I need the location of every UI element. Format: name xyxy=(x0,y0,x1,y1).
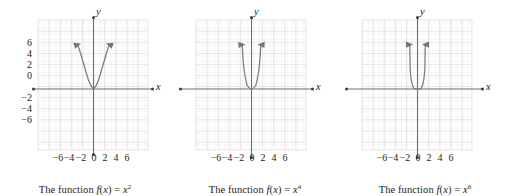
figure-three-even-power-graphs: 6 4 2 0 −2 −4 −6 −6 −4 −2 0 2 4 6 y x Th… xyxy=(0,0,510,196)
x-tick-label-6: 6 xyxy=(443,152,459,163)
panel-caption-x-sixth: The function f(x) = x6 xyxy=(340,184,510,195)
x-axis-left-endpoint-dot xyxy=(32,88,35,91)
y-tick-label-4: 4 xyxy=(16,48,32,59)
y-axis-top-endpoint-dot xyxy=(92,16,95,19)
y-tick-label-neg6: −6 xyxy=(12,114,32,125)
coordinate-plane-x-squared xyxy=(0,0,170,170)
caption-eq: = xyxy=(452,184,463,195)
graph-panel-x-sixth: −6 −4 −2 0 2 4 6 y x The function f(x) =… xyxy=(340,0,510,196)
y-tick-label-6: 6 xyxy=(16,37,32,48)
x-axis-name: x xyxy=(156,81,161,92)
x-tick-label-6: 6 xyxy=(277,152,293,163)
y-tick-label-0: 0 xyxy=(16,70,32,81)
caption-arg: (x) xyxy=(440,184,452,195)
panel-caption-x-fourth: The function f(x) = x4 xyxy=(170,184,340,195)
x-axis-name: x xyxy=(486,81,491,92)
caption-arg: (x) xyxy=(270,184,282,195)
caption-prefix: The function xyxy=(209,184,267,195)
y-tick-label-neg2: −2 xyxy=(12,92,32,103)
caption-prefix: The function xyxy=(39,184,97,195)
y-axis-name: y xyxy=(254,6,259,17)
coordinate-plane-x-sixth xyxy=(340,0,510,170)
x-axis-right-endpoint-dot xyxy=(311,88,314,91)
caption-exponent: 4 xyxy=(298,183,302,190)
caption-eq: = xyxy=(112,184,123,195)
x-axis-left-endpoint-dot xyxy=(179,88,182,91)
x-axis-right-endpoint-dot xyxy=(151,88,154,91)
graph-panel-x-fourth: −6 −4 −2 0 2 4 6 y x The function f(x) =… xyxy=(170,0,340,196)
y-tick-label-2: 2 xyxy=(16,59,32,70)
caption-arg: (x) xyxy=(100,184,112,195)
coordinate-plane-x-fourth xyxy=(170,0,340,170)
x-axis-left-endpoint-dot xyxy=(345,88,348,91)
y-axis-name: y xyxy=(420,6,425,17)
y-tick-label-neg4: −4 xyxy=(12,103,32,114)
caption-exponent: 2 xyxy=(128,183,132,190)
caption-prefix: The function xyxy=(379,184,437,195)
caption-eq: = xyxy=(282,184,293,195)
y-axis-name: y xyxy=(96,6,101,17)
y-axis-top-endpoint-dot xyxy=(416,16,419,19)
caption-exponent: 6 xyxy=(468,183,472,190)
graph-panel-x-squared: 6 4 2 0 −2 −4 −6 −6 −4 −2 0 2 4 6 y x Th… xyxy=(0,0,170,196)
x-tick-label-6: 6 xyxy=(119,152,135,163)
x-axis-right-endpoint-dot xyxy=(481,88,484,91)
panel-caption-x-squared: The function f(x) = x2 xyxy=(0,184,170,195)
y-axis-top-endpoint-dot xyxy=(250,16,253,19)
x-axis-name: x xyxy=(316,81,321,92)
